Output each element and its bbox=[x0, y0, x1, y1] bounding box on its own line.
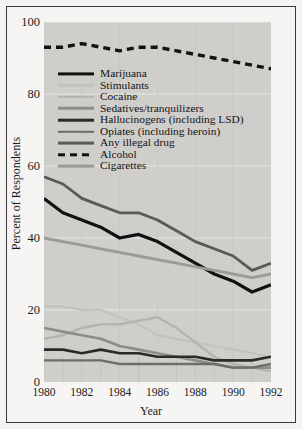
x-tick-label: 1980 bbox=[24, 386, 64, 398]
legend-swatch-icon bbox=[58, 80, 94, 92]
x-tick-label: 1986 bbox=[138, 386, 178, 398]
x-tick-label: 1982 bbox=[62, 386, 102, 398]
legend-item: Cocaine bbox=[58, 91, 244, 103]
legend-item-label: Hallucinogens (including LSD) bbox=[100, 114, 244, 126]
y-tick-label: 20 bbox=[28, 304, 41, 317]
legend-swatch-icon bbox=[58, 114, 94, 126]
x-tick-label: 1992 bbox=[251, 386, 291, 398]
legend-item-label: Marijuana bbox=[100, 68, 147, 80]
y-tick-label: 60 bbox=[28, 160, 41, 173]
legend-swatch-icon bbox=[58, 137, 94, 149]
legend-swatch-icon bbox=[58, 149, 94, 161]
legend-swatch-icon bbox=[58, 126, 94, 138]
chart-legend: MarijuanaStimulantsCocaineSedatives/tran… bbox=[58, 68, 244, 172]
legend-swatch-icon bbox=[58, 68, 94, 80]
legend-item: Hallucinogens (including LSD) bbox=[58, 114, 244, 126]
legend-item: Any illegal drug bbox=[58, 137, 244, 149]
legend-swatch-icon bbox=[58, 103, 94, 115]
x-tick-label: 1988 bbox=[175, 386, 215, 398]
legend-item-label: Cocaine bbox=[100, 91, 137, 103]
legend-item: Stimulants bbox=[58, 80, 244, 92]
y-axis-title: Percent of Respondents bbox=[9, 124, 24, 264]
y-tick-label: 80 bbox=[28, 88, 41, 101]
legend-item: Cigarettes bbox=[58, 160, 244, 172]
chart-figure: 020406080100 198019821984198619881990199… bbox=[0, 0, 302, 429]
legend-swatch-icon bbox=[58, 160, 94, 172]
legend-swatch-icon bbox=[58, 91, 94, 103]
y-tick-label: 100 bbox=[21, 16, 40, 29]
x-tick-label: 1990 bbox=[213, 386, 253, 398]
legend-item-label: Cigarettes bbox=[100, 160, 146, 172]
x-axis-title: Year bbox=[0, 404, 302, 419]
y-tick-label: 40 bbox=[28, 232, 41, 245]
legend-item: Alcohol bbox=[58, 149, 244, 161]
x-tick-label: 1984 bbox=[100, 386, 140, 398]
legend-item: Marijuana bbox=[58, 68, 244, 80]
